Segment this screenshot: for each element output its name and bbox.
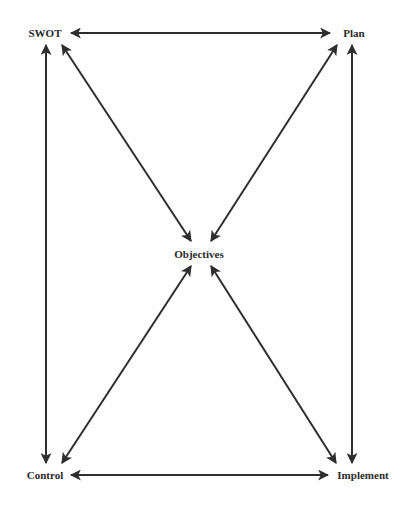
edge-plan-objectives-arrow [211,45,337,241]
node-implement: Implement [337,469,388,481]
edge-swot-objectives-arrow [62,45,191,241]
diagram-canvas: SWOT Plan Objectives Control Implement [0,0,410,507]
edge-implement-objectives-arrow [211,266,336,463]
edge-control-objectives-arrow [62,266,191,463]
node-swot: SWOT [28,27,61,39]
node-plan: Plan [343,27,364,39]
node-control: Control [27,469,63,481]
node-objectives: Objectives [174,248,223,260]
